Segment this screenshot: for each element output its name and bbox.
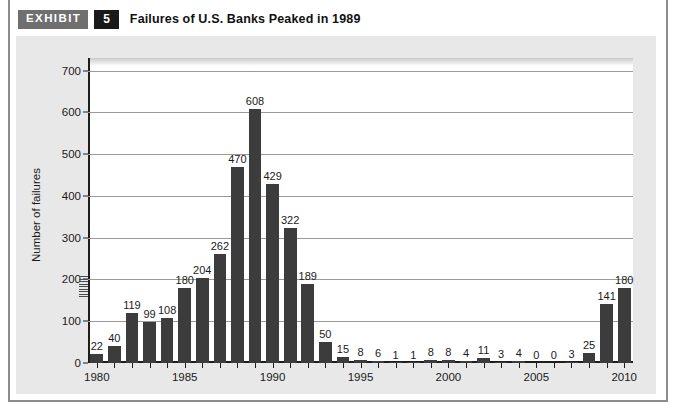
x-tick-mark <box>167 363 168 368</box>
bar <box>424 360 437 363</box>
bar <box>477 358 490 363</box>
y-tick-mark <box>83 237 88 238</box>
x-tick-mark <box>290 363 291 368</box>
y-tick-mark <box>83 195 88 196</box>
bar-value-label: 0 <box>551 349 557 361</box>
x-tick-label: 1985 <box>172 371 198 383</box>
bar-value-label: 99 <box>143 308 155 320</box>
x-tick-mark <box>97 363 98 368</box>
bar-value-label: 8 <box>428 346 434 358</box>
bar-value-label: 4 <box>516 347 522 359</box>
bar-value-label: 40 <box>108 332 120 344</box>
bar <box>618 288 631 363</box>
x-tick-mark <box>378 363 379 368</box>
scan-artifact-mark <box>79 296 88 297</box>
x-tick-mark <box>185 363 186 368</box>
exhibit-tag: EXHIBIT <box>18 10 88 29</box>
x-tick-mark <box>132 363 133 368</box>
bar <box>354 360 367 363</box>
bar-value-label: 180 <box>176 274 194 286</box>
bar <box>214 254 227 363</box>
x-tick-mark <box>308 363 309 368</box>
bar <box>231 167 244 363</box>
x-tick-mark <box>396 363 397 368</box>
bar <box>301 284 314 363</box>
exhibit-page: EXHIBIT 5 Failures of U.S. Banks Peaked … <box>0 0 674 408</box>
bar <box>442 360 455 363</box>
bar <box>372 361 385 364</box>
bar-value-label: 50 <box>319 328 331 340</box>
exhibit-header: EXHIBIT 5 Failures of U.S. Banks Peaked … <box>18 9 361 29</box>
bar <box>565 362 578 364</box>
bar <box>389 362 402 364</box>
bar-value-label: 15 <box>337 343 349 355</box>
bar <box>512 361 525 363</box>
bar-value-label: 6 <box>375 347 381 359</box>
bar <box>108 346 121 363</box>
x-tick-label: 2000 <box>436 371 462 383</box>
x-tick-label: 2005 <box>524 371 550 383</box>
y-tick-label: 0 <box>75 357 81 369</box>
bar-value-label: 1 <box>393 349 399 361</box>
plot-area: 0100200300400500600700198019851990199520… <box>88 58 633 363</box>
right-border-rule <box>666 0 668 400</box>
bar <box>460 361 473 363</box>
scan-artifact-mark <box>79 294 88 295</box>
bar <box>407 362 420 364</box>
x-tick-mark <box>150 363 151 368</box>
y-tick-label: 300 <box>62 232 81 244</box>
scan-artifact-mark <box>79 276 88 277</box>
bar-value-label: 11 <box>478 344 489 356</box>
x-tick-mark <box>114 363 115 368</box>
bar-value-label: 1 <box>410 349 416 361</box>
scan-artifact-mark <box>79 284 88 285</box>
bar <box>266 184 279 363</box>
x-tick-label: 1980 <box>84 371 110 383</box>
gridline <box>88 196 633 197</box>
scan-artifact-mark <box>79 291 88 292</box>
bar <box>126 313 139 363</box>
bar-value-label: 3 <box>498 348 504 360</box>
gridline <box>88 112 633 113</box>
bar-value-label: 119 <box>123 299 141 311</box>
bar-value-label: 608 <box>246 95 264 107</box>
scan-artifact-mark <box>79 279 88 280</box>
bar <box>249 109 262 363</box>
bar-value-label: 0 <box>533 349 539 361</box>
bar-value-label: 322 <box>281 214 299 226</box>
bar-value-label: 429 <box>263 170 281 182</box>
x-tick-mark <box>202 363 203 368</box>
chart-frame: Number of failures 010020030040050060070… <box>16 36 656 394</box>
x-tick-mark <box>554 363 555 368</box>
x-tick-label: 1995 <box>348 371 374 383</box>
y-tick-mark <box>83 112 88 113</box>
gridline <box>88 154 633 155</box>
plot-top-shading <box>88 58 633 65</box>
x-tick-mark <box>325 363 326 368</box>
x-tick-mark <box>571 363 572 368</box>
bar-value-label: 108 <box>158 304 176 316</box>
bar <box>196 278 209 363</box>
bar-value-label: 262 <box>211 240 229 252</box>
y-tick-label: 400 <box>62 190 81 202</box>
y-tick-mark <box>83 321 88 322</box>
x-tick-mark <box>220 363 221 368</box>
x-tick-mark <box>237 363 238 368</box>
x-tick-mark <box>413 363 414 368</box>
bar <box>178 288 191 363</box>
x-tick-mark <box>536 363 537 368</box>
x-tick-label: 1990 <box>260 371 286 383</box>
bottom-border-rule <box>8 400 668 402</box>
bar <box>337 357 350 363</box>
bar-value-label: 8 <box>357 346 363 358</box>
x-tick-mark <box>255 363 256 368</box>
bar-value-label: 8 <box>445 346 451 358</box>
x-tick-mark <box>501 363 502 368</box>
y-axis-title: Number of failures <box>30 168 42 262</box>
x-tick-label: 2010 <box>611 371 637 383</box>
bar-value-label: 4 <box>463 347 469 359</box>
bar-value-label: 470 <box>228 153 246 165</box>
bar <box>583 353 596 363</box>
y-tick-label: 500 <box>62 148 81 160</box>
x-tick-mark <box>448 363 449 368</box>
